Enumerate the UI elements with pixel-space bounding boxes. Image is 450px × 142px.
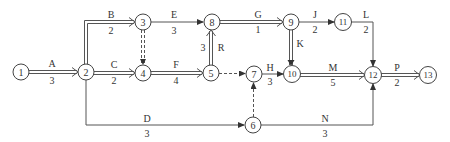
activity-P-name: P xyxy=(394,62,400,73)
activity-R: 3 R xyxy=(201,30,225,65)
activity-D-name: D xyxy=(143,113,150,124)
activity-P-duration: 2 xyxy=(395,77,400,88)
node-11: 11 xyxy=(335,14,352,31)
node-1-label: 1 xyxy=(19,67,24,78)
activity-R-name: R xyxy=(218,42,225,53)
node-9-label: 9 xyxy=(289,17,294,28)
activity-E-name: E xyxy=(171,9,177,20)
node-2: 2 xyxy=(78,64,94,80)
activity-L: L 2 xyxy=(351,9,373,66)
activity-K: K xyxy=(288,30,305,66)
node-12-label: 12 xyxy=(369,70,378,80)
activity-B-duration: 2 xyxy=(109,25,114,36)
activity-D-duration: 3 xyxy=(145,128,150,139)
activity-M: M 5 xyxy=(300,62,365,88)
node-3-label: 3 xyxy=(141,17,146,28)
activity-P: P 2 xyxy=(381,62,420,88)
activity-F-duration: 4 xyxy=(174,75,179,86)
activity-A: A 3 xyxy=(29,58,78,86)
node-5-label: 5 xyxy=(209,68,214,79)
node-11-label: 11 xyxy=(339,17,348,27)
node-5: 5 xyxy=(203,65,219,81)
node-1: 1 xyxy=(13,64,29,80)
activity-L-duration: 2 xyxy=(364,24,369,35)
network-diagram-svg: A 3 B 2 C 2 D 3 E 3 F 4 xyxy=(0,0,450,142)
activity-G-name: G xyxy=(254,9,261,20)
node-9: 9 xyxy=(283,14,299,30)
node-4: 4 xyxy=(135,65,151,81)
activity-E: E 3 xyxy=(151,9,203,36)
node-7: 7 xyxy=(246,66,262,82)
activity-N: N 3 xyxy=(261,84,373,139)
activity-L-name: L xyxy=(363,9,369,20)
activity-D: D 3 xyxy=(86,80,244,139)
node-12: 12 xyxy=(365,67,382,84)
activity-E-duration: 3 xyxy=(172,25,177,36)
node-10-label: 10 xyxy=(288,69,298,79)
activity-B-name: B xyxy=(108,9,115,20)
node-7-label: 7 xyxy=(252,69,257,80)
network-diagram: A 3 B 2 C 2 D 3 E 3 F 4 xyxy=(0,0,450,142)
activity-F-name: F xyxy=(173,59,179,70)
activity-M-name: M xyxy=(329,62,338,73)
node-13: 13 xyxy=(420,67,437,84)
activity-H-duration: 3 xyxy=(268,76,273,87)
activity-G: G 1 xyxy=(220,9,283,35)
node-10: 10 xyxy=(284,66,301,83)
activity-A-duration: 3 xyxy=(50,75,55,86)
activity-C-name: C xyxy=(111,59,118,70)
activity-H: H 3 xyxy=(262,62,283,87)
node-13-label: 13 xyxy=(424,70,434,80)
activity-C-duration: 2 xyxy=(112,75,117,86)
activity-F: F 4 xyxy=(151,59,203,86)
activity-J-name: J xyxy=(313,9,317,20)
node-6: 6 xyxy=(245,117,261,133)
dummy-3-4 xyxy=(140,30,146,65)
activity-A-name: A xyxy=(48,58,56,69)
node-8: 8 xyxy=(204,14,220,30)
activity-B: B 2 xyxy=(85,9,136,64)
node-8-label: 8 xyxy=(210,17,215,28)
activity-K-name: K xyxy=(296,38,304,49)
activity-M-duration: 5 xyxy=(331,77,336,88)
activity-N-duration: 3 xyxy=(323,128,328,139)
activity-H-name: H xyxy=(266,62,273,73)
activity-R-duration: 3 xyxy=(201,42,206,53)
node-2-label: 2 xyxy=(84,67,89,78)
activity-G-duration: 1 xyxy=(256,24,261,35)
activity-C: C 2 xyxy=(94,59,135,86)
node-3: 3 xyxy=(135,14,151,30)
activity-J: J 2 xyxy=(299,9,334,35)
node-6-label: 6 xyxy=(251,120,256,131)
node-4-label: 4 xyxy=(141,68,146,79)
activity-N-name: N xyxy=(321,113,328,124)
activity-J-duration: 2 xyxy=(313,24,318,35)
